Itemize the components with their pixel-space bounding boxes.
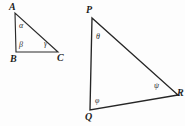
angle-label-theta: θ	[96, 33, 100, 41]
vertex-label-r: R	[177, 88, 184, 98]
angle-label-alpha: α	[19, 22, 23, 30]
triangle-pqr-outline	[90, 18, 178, 110]
vertex-label-q: Q	[85, 112, 92, 122]
triangle-pqr-shape	[90, 18, 178, 110]
angle-label-gamma: γ	[44, 40, 47, 48]
angle-label-psi: ψ	[154, 82, 159, 90]
angle-label-beta: β	[19, 41, 23, 49]
vertex-label-a: A	[9, 2, 16, 12]
vertex-label-p: P	[86, 5, 92, 15]
geometry-figure: A B C α β γ P Q R θ φ ψ	[0, 0, 185, 126]
angle-label-phi: φ	[95, 97, 99, 105]
vertex-label-b: B	[10, 54, 17, 64]
triangles-svg	[0, 0, 185, 126]
vertex-label-c: C	[57, 53, 64, 63]
